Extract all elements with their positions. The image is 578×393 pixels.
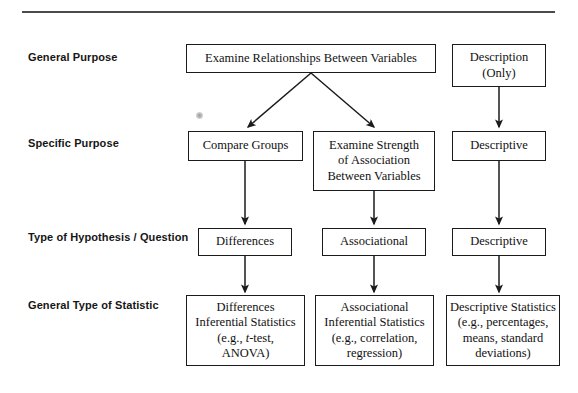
node-differences-inferential-line4: ANOVA): [222, 346, 270, 361]
top-horizontal-rule: [22, 11, 555, 13]
node-compare-groups-line1: Compare Groups: [203, 138, 289, 153]
arrow-relationships-to-compare-groups: [248, 73, 311, 127]
node-differences-line1: Differences: [216, 234, 274, 249]
ttest-suffix: -test,: [249, 331, 274, 345]
node-examine-strength-line3: Between Variables: [327, 169, 420, 184]
node-differences-inferential-line3: (e.g., t-test,: [217, 331, 274, 346]
arrow-relationships-to-examine-strength: [311, 73, 374, 127]
node-associational-inferential-line3: (e.g., correlation,: [332, 331, 418, 346]
node-descriptive-specific-line1: Descriptive: [470, 138, 528, 153]
node-associational-line1: Associational: [340, 234, 408, 249]
node-descriptive-statistics-line2: (e.g., percentages,: [458, 315, 549, 330]
row-label-type-of-hypothesis: Type of Hypothesis / Question: [28, 232, 188, 243]
node-differences-inferential-line2: Inferential Statistics: [195, 315, 295, 330]
node-examine-strength: Examine Strength of Association Between …: [313, 131, 435, 191]
node-compare-groups: Compare Groups: [188, 131, 303, 161]
row-label-general-purpose: General Purpose: [28, 52, 118, 63]
node-associational-inferential-line1: Associational: [340, 300, 408, 315]
node-descriptive-specific: Descriptive: [452, 131, 546, 161]
node-descriptive-statistics-line3: means, standard: [463, 331, 544, 346]
node-associational-inferential-line2: Inferential Statistics: [324, 315, 424, 330]
row-label-specific-purpose: Specific Purpose: [28, 138, 119, 149]
scan-artifact-dot: [196, 112, 203, 119]
ttest-prefix: (e.g.,: [217, 331, 245, 345]
node-examine-relationships: Examine Relationships Between Variables: [186, 44, 436, 73]
node-associational-inferential: Associational Inferential Statistics (e.…: [315, 295, 434, 366]
node-examine-strength-line1: Examine Strength: [329, 138, 419, 153]
node-descriptive-statistics: Descriptive Statistics (e.g., percentage…: [446, 295, 560, 366]
node-descriptive-statistics-line1: Descriptive Statistics: [450, 300, 556, 315]
node-descriptive-statistics-line4: deviations): [475, 346, 531, 361]
node-differences-inferential: Differences Inferential Statistics (e.g.…: [186, 295, 305, 366]
flowchart-figure: General Purpose Specific Purpose Type of…: [0, 0, 578, 393]
node-descriptive-hypothesis-line1: Descriptive: [470, 234, 528, 249]
node-differences: Differences: [198, 228, 292, 256]
node-differences-inferential-line1: Differences: [216, 300, 274, 315]
row-label-general-type-of-statistic: General Type of Statistic: [28, 300, 159, 311]
node-description-only-line1: Description: [470, 50, 528, 65]
node-examine-relationships-line1: Examine Relationships Between Variables: [205, 51, 417, 66]
node-description-only: Description (Only): [452, 44, 546, 87]
node-examine-strength-line2: of Association: [338, 153, 410, 168]
node-descriptive-hypothesis: Descriptive: [452, 228, 546, 256]
node-associational-inferential-line4: regression): [347, 346, 403, 361]
node-description-only-line2: (Only): [482, 66, 515, 81]
node-associational: Associational: [322, 228, 426, 256]
